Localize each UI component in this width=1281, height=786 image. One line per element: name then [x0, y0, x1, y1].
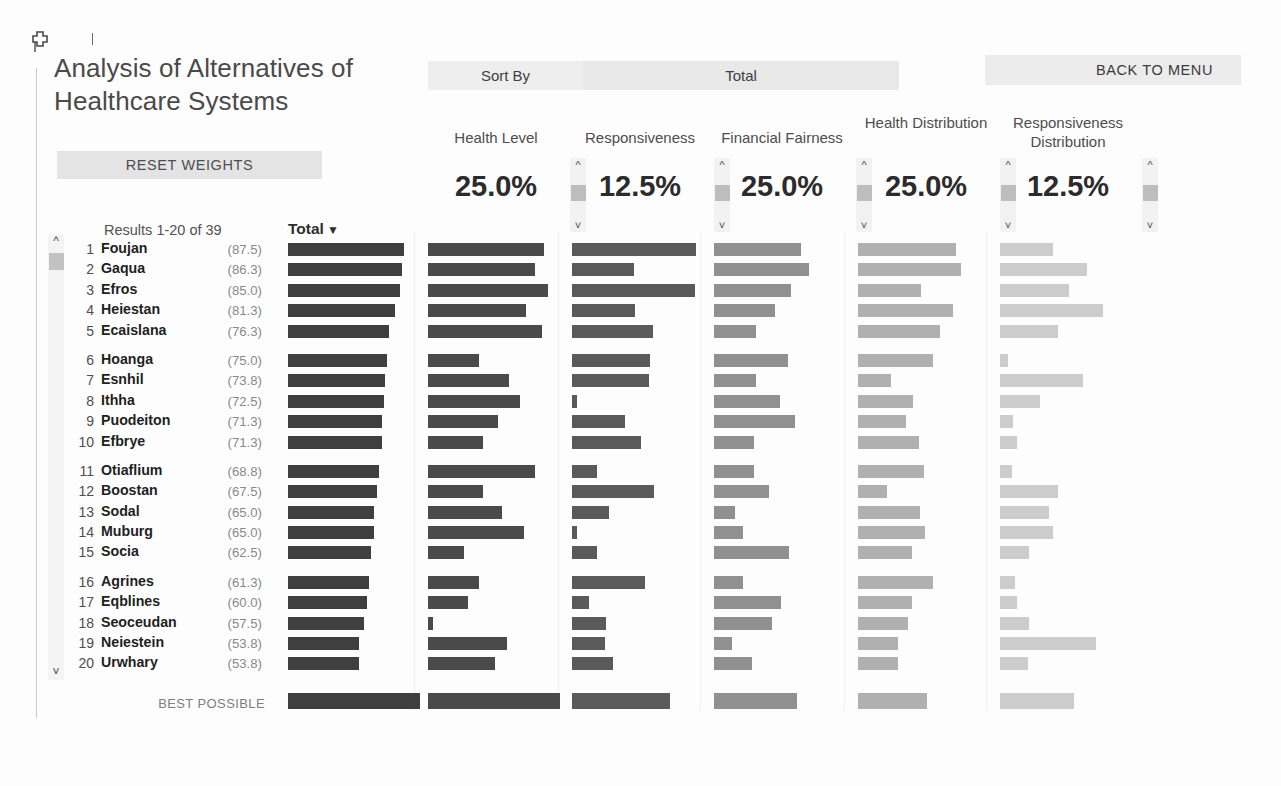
table-row[interactable]: 16Agrines(61.3) [0, 573, 1281, 593]
table-row[interactable]: 13Sodal(65.0) [0, 503, 1281, 523]
best-bar-criterion-2 [572, 693, 670, 709]
table-row[interactable]: 2Gaqua(86.3) [0, 260, 1281, 280]
bar-total [288, 263, 402, 276]
bar-criterion-4 [858, 617, 908, 630]
row-rank: 13 [72, 504, 94, 520]
table-row[interactable]: 17Eqblines(60.0) [0, 593, 1281, 613]
bar-criterion-4 [858, 596, 912, 609]
bar-total [288, 526, 374, 539]
best-bar-criterion-3 [714, 693, 797, 709]
sort-by-select[interactable]: Total [583, 61, 899, 90]
analysis-dashboard: Analysis of Alternatives of Healthcare S… [0, 0, 1281, 786]
row-total-score: (65.0) [208, 525, 262, 540]
bar-total [288, 415, 382, 428]
row-total-score: (72.5) [208, 394, 262, 409]
bar-criterion-2 [572, 354, 650, 367]
bar-criterion-2 [572, 374, 649, 387]
bar-criterion-2 [572, 617, 606, 630]
row-alternative-name: Otiaflium [101, 462, 162, 478]
bar-criterion-4 [858, 526, 925, 539]
bar-criterion-2 [572, 243, 696, 256]
weight-increase-icon[interactable]: ^ [1142, 158, 1158, 172]
bar-total [288, 243, 404, 256]
bar-criterion-3 [714, 617, 772, 630]
bar-criterion-3 [714, 526, 743, 539]
weight-slider-thumb[interactable] [1143, 185, 1158, 201]
row-rank: 1 [72, 241, 94, 257]
table-row[interactable]: 19Neiestein(53.8) [0, 634, 1281, 654]
table-row[interactable]: 14Muburg(65.0) [0, 523, 1281, 543]
bar-criterion-2 [572, 325, 653, 338]
weight-decrease-icon[interactable]: ˅ [1142, 218, 1158, 232]
bar-criterion-3 [714, 637, 732, 650]
bar-criterion-4 [858, 436, 919, 449]
bar-criterion-1 [428, 546, 464, 559]
bar-criterion-3 [714, 546, 789, 559]
bar-criterion-3 [714, 657, 752, 670]
bar-criterion-5 [1000, 657, 1028, 670]
bar-criterion-5 [1000, 506, 1049, 519]
total-column-header[interactable]: Total▼ [288, 220, 339, 238]
bar-criterion-5 [1000, 485, 1058, 498]
bar-total [288, 304, 395, 317]
table-row[interactable]: 3Efros(85.0) [0, 281, 1281, 301]
weight-decrease-icon[interactable]: ˅ [714, 218, 730, 232]
bar-criterion-1 [428, 243, 544, 256]
row-total-score: (53.8) [208, 636, 262, 651]
table-row[interactable]: 7Esnhil(73.8) [0, 371, 1281, 391]
criterion-title-1: Health Level [420, 128, 572, 147]
weight-slider-5[interactable]: ^˅ [1142, 158, 1158, 232]
reset-weights-button[interactable]: RESET WEIGHTS [57, 151, 322, 179]
bar-total [288, 637, 359, 650]
bar-criterion-5 [1000, 546, 1029, 559]
table-row[interactable]: 15Socia(62.5) [0, 543, 1281, 563]
bar-criterion-4 [858, 637, 898, 650]
bar-criterion-3 [714, 415, 795, 428]
table-row[interactable]: 9Puodeiton(71.3) [0, 412, 1281, 432]
bar-criterion-3 [714, 325, 756, 338]
row-rank: 12 [72, 483, 94, 499]
weight-decrease-icon[interactable]: ˅ [570, 218, 586, 232]
bar-criterion-3 [714, 304, 775, 317]
bar-criterion-1 [428, 576, 479, 589]
bar-criterion-2 [572, 506, 609, 519]
bar-criterion-5 [1000, 415, 1013, 428]
bar-criterion-3 [714, 374, 756, 387]
table-row[interactable]: 12Boostan(67.5) [0, 482, 1281, 502]
row-alternative-name: Socia [101, 543, 139, 559]
pin-icon[interactable] [30, 31, 52, 55]
bar-criterion-1 [428, 526, 524, 539]
bar-criterion-5 [1000, 304, 1103, 317]
back-to-menu-button[interactable]: BACK TO MENU [985, 55, 1241, 85]
table-row[interactable]: 10Efbrye(71.3) [0, 433, 1281, 453]
row-rank: 10 [72, 434, 94, 450]
row-total-score: (57.5) [208, 616, 262, 631]
table-row[interactable]: 1Foujan(87.5) [0, 240, 1281, 260]
row-alternative-name: Ecaislana [101, 322, 166, 338]
bar-total [288, 657, 359, 670]
table-row[interactable]: 20Urwhary(53.8) [0, 654, 1281, 674]
bar-total [288, 284, 400, 297]
bar-criterion-1 [428, 354, 479, 367]
table-row[interactable]: 8Ithha(72.5) [0, 392, 1281, 412]
table-row[interactable]: 18Seoceudan(57.5) [0, 614, 1281, 634]
row-alternative-name: Efbrye [101, 433, 145, 449]
table-row[interactable]: 4Heiestan(81.3) [0, 301, 1281, 321]
row-alternative-name: Boostan [101, 482, 158, 498]
row-total-score: (85.0) [208, 283, 262, 298]
best-possible-label: BEST POSSIBLE [125, 696, 265, 711]
results-count-label: Results 1-20 of 39 [104, 222, 222, 238]
bar-criterion-2 [572, 436, 641, 449]
bar-criterion-1 [428, 374, 509, 387]
table-row[interactable]: 5Ecaislana(76.3) [0, 322, 1281, 342]
row-rank: 19 [72, 635, 94, 651]
bar-criterion-1 [428, 637, 507, 650]
bar-criterion-5 [1000, 325, 1058, 338]
bar-criterion-3 [714, 576, 743, 589]
page-title: Analysis of Alternatives of Healthcare S… [54, 52, 414, 118]
table-row[interactable]: 11Otiaflium(68.8) [0, 462, 1281, 482]
weight-decrease-icon[interactable]: ˅ [1000, 218, 1016, 232]
table-row[interactable]: 6Hoanga(75.0) [0, 351, 1281, 371]
criterion-title-2: Responsiveness [564, 128, 716, 147]
weight-decrease-icon[interactable]: ˅ [856, 218, 872, 232]
